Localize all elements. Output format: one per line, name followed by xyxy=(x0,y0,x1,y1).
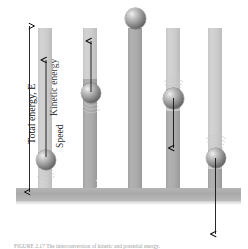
ball-3 xyxy=(125,8,146,29)
ground-strip xyxy=(16,188,241,202)
figure-caption: FIGURE 2.17 The interconversion of kinet… xyxy=(14,243,242,249)
ball-5 xyxy=(206,148,226,168)
energy-bar-3 xyxy=(128,28,142,188)
potential-segment-4 xyxy=(166,111,180,188)
energy-bar-2: Potential energy xyxy=(83,28,97,188)
total-energy-label: Total energy, E xyxy=(26,84,37,144)
ball-2 xyxy=(81,83,101,103)
ball-4 xyxy=(163,88,184,109)
kinetic-energy-label: Kinetic energy xyxy=(49,59,59,116)
potential-segment-3 xyxy=(128,28,142,188)
potential-segment-5 xyxy=(208,169,222,188)
ground-shadow xyxy=(16,201,241,205)
kinetic-segment-2 xyxy=(83,28,97,79)
ball-1 xyxy=(36,150,56,170)
energy-figure: Kinetic energy Potential energy xyxy=(0,0,248,249)
speed-label: Speed xyxy=(55,124,65,148)
